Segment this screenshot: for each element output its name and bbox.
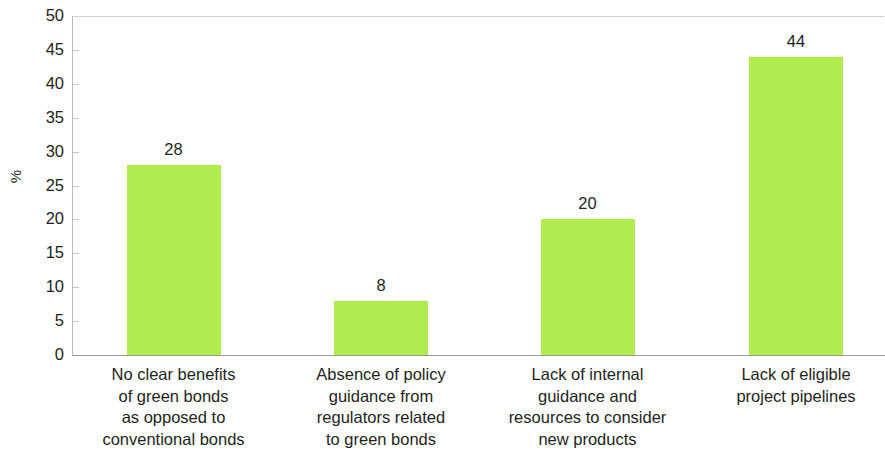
y-axis-tick-label: 15 bbox=[22, 244, 64, 260]
bar-value-label: 8 bbox=[321, 276, 441, 294]
y-axis-tick-mark bbox=[73, 186, 79, 187]
bar bbox=[127, 165, 221, 355]
bar-value-label: 20 bbox=[528, 194, 648, 212]
y-axis-tick-mark bbox=[73, 84, 79, 85]
y-axis-tick-mark bbox=[73, 50, 79, 51]
y-axis-tick-label: 40 bbox=[22, 75, 64, 91]
y-axis-tick-mark bbox=[73, 152, 79, 153]
bar bbox=[749, 57, 843, 355]
y-axis-tick-label: 0 bbox=[22, 346, 64, 362]
y-axis-tick-mark bbox=[73, 118, 79, 119]
bar-value-label: 28 bbox=[114, 140, 234, 158]
x-axis-baseline bbox=[72, 355, 885, 356]
y-axis-tick-label: 25 bbox=[22, 177, 64, 193]
y-axis-tick-label: 5 bbox=[22, 312, 64, 328]
y-axis-tick-label: 30 bbox=[22, 143, 64, 159]
y-axis-tick-label: 45 bbox=[22, 41, 64, 57]
x-axis-category-label: Absence of policy guidance from regulato… bbox=[280, 364, 482, 450]
bar-chart: % 50454035302520151050 2882044 No clear … bbox=[0, 0, 885, 451]
bar bbox=[334, 301, 428, 355]
y-axis-tick-label: 35 bbox=[22, 109, 64, 125]
bar bbox=[541, 219, 635, 355]
x-axis-category-label: Lack of eligible project pipelines bbox=[695, 364, 885, 407]
x-axis-category-label: No clear benefits of green bonds as oppo… bbox=[73, 364, 275, 450]
x-axis-category-label: Lack of internal guidance and resources … bbox=[487, 364, 689, 450]
y-axis-tick-mark bbox=[73, 253, 79, 254]
y-axis-tick-mark bbox=[73, 219, 79, 220]
bar-value-label: 44 bbox=[736, 32, 856, 50]
y-axis-tick-labels: 50454035302520151050 bbox=[14, 0, 64, 451]
y-axis-tick-label: 20 bbox=[22, 210, 64, 226]
y-axis-tick-label: 50 bbox=[22, 7, 64, 23]
y-axis-tick-mark bbox=[73, 321, 79, 322]
y-axis-tick-mark bbox=[73, 287, 79, 288]
y-axis-tick-label: 10 bbox=[22, 278, 64, 294]
